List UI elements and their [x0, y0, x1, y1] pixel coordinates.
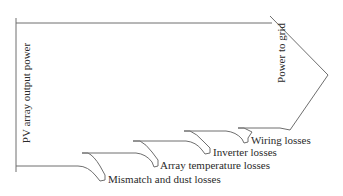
input-label: PV array output power: [20, 43, 32, 144]
loss-branch-mismatch-inner: [82, 153, 105, 175]
loss-label-array-temperature: Array temperature losses: [160, 159, 270, 171]
loss-label-mismatch: Mismatch and dust losses: [108, 173, 221, 185]
loss-branch-mismatch: [16, 166, 105, 181]
loss-label-wiring: Wiring losses: [251, 134, 311, 146]
pv-loss-diagram: PV array output power Power to grid Mism…: [0, 0, 343, 196]
main-flow-top-edge: [16, 18, 272, 23]
loss-label-inverter: Inverter losses: [213, 146, 277, 158]
loss-branch-array-temperature: [82, 153, 158, 167]
loss-branch-inverter: [133, 141, 210, 154]
loss-branch-array-temperature-inner: [133, 141, 158, 160]
output-label: Power to grid: [275, 23, 287, 83]
